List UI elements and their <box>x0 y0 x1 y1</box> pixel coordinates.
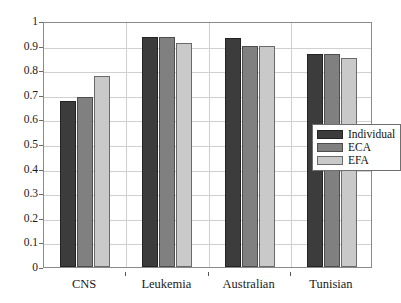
legend-swatch-icon <box>317 156 343 165</box>
bar-australian-individual <box>225 38 241 267</box>
y-tick-label: 1 <box>2 16 38 28</box>
bar-cns-eca <box>77 97 93 267</box>
legend-swatch-icon <box>317 130 343 139</box>
gridline-horizontal <box>44 48 371 49</box>
bar-leukemia-eca <box>159 37 175 267</box>
y-axis-labels: 00.10.20.30.40.50.60.70.80.91 <box>0 0 43 303</box>
y-tick-label: 0.8 <box>2 65 38 77</box>
bar-leukemia-efa <box>176 43 192 267</box>
y-tick-label: 0.6 <box>2 114 38 126</box>
x-tick-mark <box>208 272 209 276</box>
y-tick-label: 0.5 <box>2 139 38 151</box>
x-tick-label: Tunisian <box>309 278 352 291</box>
chart-legend: IndividualECAEFA <box>312 124 401 171</box>
gridline-vertical <box>209 23 210 267</box>
y-tick-label: 0.2 <box>2 213 38 225</box>
legend-item-efa: EFA <box>317 154 395 167</box>
legend-label: EFA <box>348 155 369 167</box>
legend-swatch-icon <box>317 143 343 152</box>
bar-australian-eca <box>242 46 258 267</box>
x-axis-labels: CNSLeukemiaAustralianTunisian <box>43 272 372 294</box>
x-tick-label: Leukemia <box>141 278 191 291</box>
bar-australian-efa <box>259 46 275 267</box>
bar-cns-individual <box>60 101 76 267</box>
y-tick-mark <box>39 268 43 269</box>
legend-label: ECA <box>348 142 371 154</box>
y-tick-label: 0 <box>2 262 38 274</box>
x-tick-mark <box>125 272 126 276</box>
bar-leukemia-individual <box>142 37 158 267</box>
y-tick-label: 0.3 <box>2 188 38 200</box>
x-tick-mark <box>290 272 291 276</box>
legend-item-eca: ECA <box>317 141 395 154</box>
bar-cns-efa <box>94 76 110 267</box>
gridline-vertical <box>126 23 127 267</box>
gridline-vertical <box>291 23 292 267</box>
plot-area: IndividualECAEFA <box>43 22 372 268</box>
legend-item-individual: Individual <box>317 128 395 141</box>
y-tick-label: 0.1 <box>2 237 38 249</box>
x-tick-label: Australian <box>223 278 275 291</box>
x-tick-label: CNS <box>72 278 96 291</box>
y-tick-label: 0.9 <box>2 41 38 53</box>
y-tick-label: 0.7 <box>2 90 38 102</box>
legend-label: Individual <box>348 129 395 141</box>
y-tick-label: 0.4 <box>2 164 38 176</box>
